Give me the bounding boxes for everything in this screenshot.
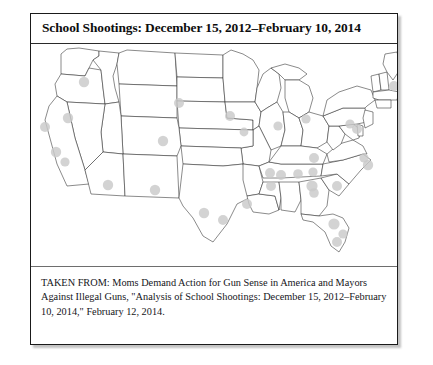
- figure-title: School Shootings: December 15, 2012–Febr…: [42, 20, 361, 36]
- us-map-container: [31, 44, 397, 266]
- figure-source-caption: TAKEN FROM: Moms Demand Action for Gun S…: [41, 276, 389, 319]
- figure-title-bar: School Shootings: December 15, 2012–Febr…: [31, 14, 397, 44]
- figure-caption-bar: TAKEN FROM: Moms Demand Action for Gun S…: [31, 266, 397, 344]
- figure-box: School Shootings: December 15, 2012–Febr…: [30, 13, 398, 345]
- us-map-svg: [31, 46, 397, 264]
